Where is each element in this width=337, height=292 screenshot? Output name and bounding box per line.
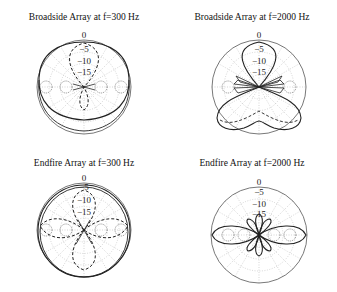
panel-endfire-2000: Endfire Array at f=2000 Hz 0 −5 −10 −15 (168, 146, 336, 292)
r-tick-10: −10 (77, 195, 92, 205)
center-lines (73, 84, 95, 90)
r-tick-15: −15 (77, 207, 92, 217)
panel-broadside-2000: Broadside Array at f=2000 Hz 0 −5 −10 −1… (168, 0, 336, 146)
r-tick-0: 0 (257, 30, 262, 40)
r-tick-5: −5 (79, 182, 89, 192)
r-tick-15: −15 (77, 67, 92, 77)
r-tick-5: −5 (254, 44, 264, 54)
r-tick-15: −15 (252, 67, 267, 77)
polar-plot: 0 −5 −10 −15 (168, 146, 337, 292)
r-tick-15: −15 (252, 209, 267, 219)
r-tick-10: −10 (77, 56, 92, 66)
r-tick-10: −10 (252, 56, 267, 66)
r-tick-5: −5 (79, 44, 89, 54)
r-tick-0: 0 (257, 177, 262, 187)
r-tick-10: −10 (252, 199, 267, 209)
panel-endfire-300: Endfire Array at f=300 Hz 0 −5 −10 −15 (0, 146, 168, 292)
r-tick-0: 0 (82, 30, 87, 40)
polar-plot: 0 −5 −10 −15 (0, 146, 168, 292)
panel-broadside-300: Broadside Array at f=300 Hz 0 −5 −10 −15 (0, 0, 168, 146)
r-tick-5: −5 (254, 187, 264, 197)
polar-plot: 0 −5 −10 −15 (0, 0, 168, 146)
polar-plot: 0 −5 −10 −15 (168, 0, 337, 146)
